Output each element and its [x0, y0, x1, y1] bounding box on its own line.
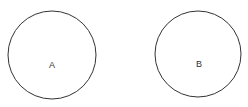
circle-b: B [155, 11, 241, 97]
circle-b-label: B [196, 59, 202, 69]
circle-a: A [8, 11, 96, 99]
circle-b-outline [155, 11, 241, 97]
circle-a-outline [8, 11, 96, 99]
circle-a-label: A [49, 60, 55, 70]
diagram-canvas: A B [0, 0, 248, 107]
